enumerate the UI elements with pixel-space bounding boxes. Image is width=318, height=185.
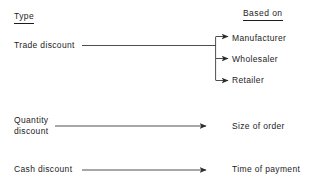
type-label-quantity-discount: Quantity discount [14,115,48,137]
target-label-size-of-order: Size of order [232,121,285,132]
branch-connector-trade-discount [82,37,228,81]
type-label-trade-discount: Trade discount [14,40,75,51]
type-label-cash-discount: Cash discount [14,164,72,175]
column-header-type: Type [14,11,34,24]
target-label-wholesaler: Wholesaler [232,54,278,65]
connector-lines [0,0,318,185]
target-label-retailer: Retailer [232,75,264,86]
target-label-time-of-payment: Time of payment [232,164,300,175]
target-label-manufacturer: Manufacturer [232,33,286,44]
column-header-based-on: Based on [243,8,283,21]
discount-types-diagram: Type Based on Trade discount Quantity di… [0,0,318,185]
